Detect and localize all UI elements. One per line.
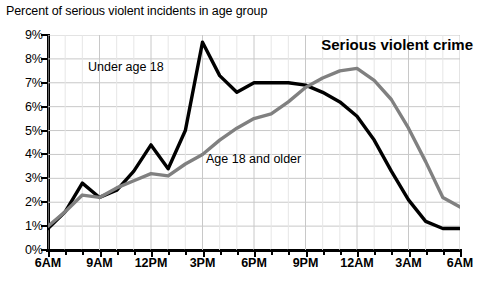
series-label-age-18-and-older: Age 18 and older xyxy=(206,152,301,166)
x-axis-tick xyxy=(374,249,376,255)
y-axis-tick xyxy=(41,82,48,84)
x-axis-labels: 6AM9AM12PM3PM6PM9PM12AM3AM6AM xyxy=(0,256,487,278)
x-axis-tick xyxy=(460,249,462,257)
x-axis-tick xyxy=(271,249,273,255)
y-axis-tick xyxy=(41,249,48,251)
x-axis-tick xyxy=(426,249,428,255)
y-axis-tick xyxy=(41,106,48,108)
x-axis-tick xyxy=(288,249,290,255)
chart-caption: Percent of serious violent incidents in … xyxy=(6,4,267,18)
x-axis-tick xyxy=(82,249,84,255)
x-axis-tick-label: 3AM xyxy=(395,256,421,270)
x-axis-tick xyxy=(185,249,187,255)
x-axis-tick xyxy=(220,249,222,255)
x-axis-tick xyxy=(391,249,393,255)
x-axis-tick-label: 6PM xyxy=(241,256,267,270)
x-axis-tick xyxy=(254,249,256,257)
x-axis-tick-label: 6AM xyxy=(447,256,473,270)
y-axis-tick xyxy=(41,130,48,132)
x-axis-tick-label: 9AM xyxy=(86,256,112,270)
x-axis-tick xyxy=(134,249,136,255)
series-line xyxy=(48,68,460,226)
y-axis-tick xyxy=(41,225,48,227)
x-axis-tick xyxy=(443,249,445,255)
y-axis-tick xyxy=(41,153,48,155)
x-axis-tick-label: 12PM xyxy=(135,256,168,270)
x-axis-tick-label: 12AM xyxy=(340,256,373,270)
x-axis-tick xyxy=(357,249,359,257)
x-axis-tick xyxy=(306,249,308,257)
x-axis-tick xyxy=(48,249,50,257)
y-axis-tick xyxy=(41,58,48,60)
y-axis-tick xyxy=(41,34,48,36)
x-axis-tick xyxy=(323,249,325,255)
x-axis-tick xyxy=(409,249,411,257)
x-axis-tick-label: 9PM xyxy=(293,256,319,270)
series-label-under-18: Under age 18 xyxy=(88,60,164,74)
x-axis-tick xyxy=(65,249,67,255)
x-axis-tick xyxy=(203,249,205,257)
x-axis-tick xyxy=(340,249,342,255)
x-axis-tick xyxy=(151,249,153,257)
x-axis-tick-label: 3PM xyxy=(190,256,216,270)
y-axis-tick xyxy=(41,201,48,203)
y-axis-labels: 0%1%2%3%4%5%6%7%8%9% xyxy=(0,0,43,282)
x-axis-tick xyxy=(117,249,119,255)
serious-violent-crime-chart: Percent of serious violent incidents in … xyxy=(0,0,487,282)
chart-title: Serious violent crime xyxy=(321,36,473,53)
x-axis-tick-label: 6AM xyxy=(35,256,61,270)
y-axis-tick xyxy=(41,177,48,179)
x-axis-tick xyxy=(168,249,170,255)
x-axis-tick xyxy=(100,249,102,257)
x-axis-tick xyxy=(237,249,239,255)
